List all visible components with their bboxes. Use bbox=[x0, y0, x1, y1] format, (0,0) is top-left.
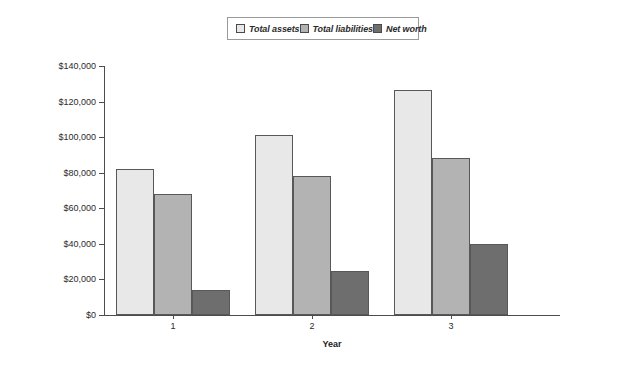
y-axis-tick-label: $120,000 bbox=[30, 97, 96, 107]
y-axis-tick-label: $80,000 bbox=[30, 168, 96, 178]
bar bbox=[331, 271, 369, 315]
bar bbox=[293, 176, 331, 315]
legend-swatch-icon bbox=[236, 24, 245, 33]
legend-label: Total assets bbox=[249, 24, 300, 34]
chart-plot-area: $0$20,000$40,000$60,000$80,000$100,000$1… bbox=[104, 66, 560, 315]
y-axis-tick-label: $100,000 bbox=[30, 132, 96, 142]
y-axis-tick-label: $60,000 bbox=[30, 203, 96, 213]
y-axis-tick bbox=[99, 315, 104, 316]
x-axis-tick bbox=[451, 315, 452, 319]
chart-legend: Total assets Total liabilities Net worth bbox=[227, 17, 419, 40]
y-axis-tick-label: $40,000 bbox=[30, 239, 96, 249]
x-axis-tick bbox=[312, 315, 313, 319]
y-axis-tick-label: $20,000 bbox=[30, 274, 96, 284]
x-axis-tick-label: 1 bbox=[170, 321, 175, 331]
bar bbox=[432, 158, 470, 315]
y-axis-tick-label: $0 bbox=[30, 310, 96, 320]
bar bbox=[394, 90, 432, 315]
bar bbox=[154, 194, 192, 315]
x-axis-tick-label: 2 bbox=[309, 321, 314, 331]
x-axis-tick bbox=[173, 315, 174, 319]
bar-groups bbox=[104, 66, 560, 315]
legend-item-net-worth: Net worth bbox=[373, 24, 427, 34]
x-axis-title: Year bbox=[104, 339, 560, 349]
bar bbox=[470, 244, 508, 315]
y-axis-tick-label: $140,000 bbox=[30, 61, 96, 71]
legend-label: Total liabilities bbox=[313, 24, 373, 34]
legend-swatch-icon bbox=[300, 24, 309, 33]
legend-swatch-icon bbox=[373, 24, 382, 33]
y-axis-labels: $0$20,000$40,000$60,000$80,000$100,000$1… bbox=[30, 66, 96, 315]
legend-item-total-assets: Total assets bbox=[236, 24, 300, 34]
bar bbox=[192, 290, 230, 315]
bar bbox=[255, 135, 293, 315]
legend-label: Net worth bbox=[386, 24, 427, 34]
x-axis-tick-label: 3 bbox=[448, 321, 453, 331]
bar bbox=[116, 169, 154, 315]
legend-item-total-liabilities: Total liabilities bbox=[300, 24, 373, 34]
